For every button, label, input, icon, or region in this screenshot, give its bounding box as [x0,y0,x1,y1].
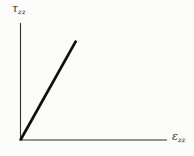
stress-strain-figure: τzz εzz [0,0,194,156]
plot-canvas [0,0,194,156]
data-line [21,41,77,140]
y-axis-label: τzz [12,3,26,16]
x-axis-label: εzz [172,131,186,144]
x-axis-label-subscript: zz [178,136,186,144]
y-axis-label-subscript: zz [18,8,26,16]
